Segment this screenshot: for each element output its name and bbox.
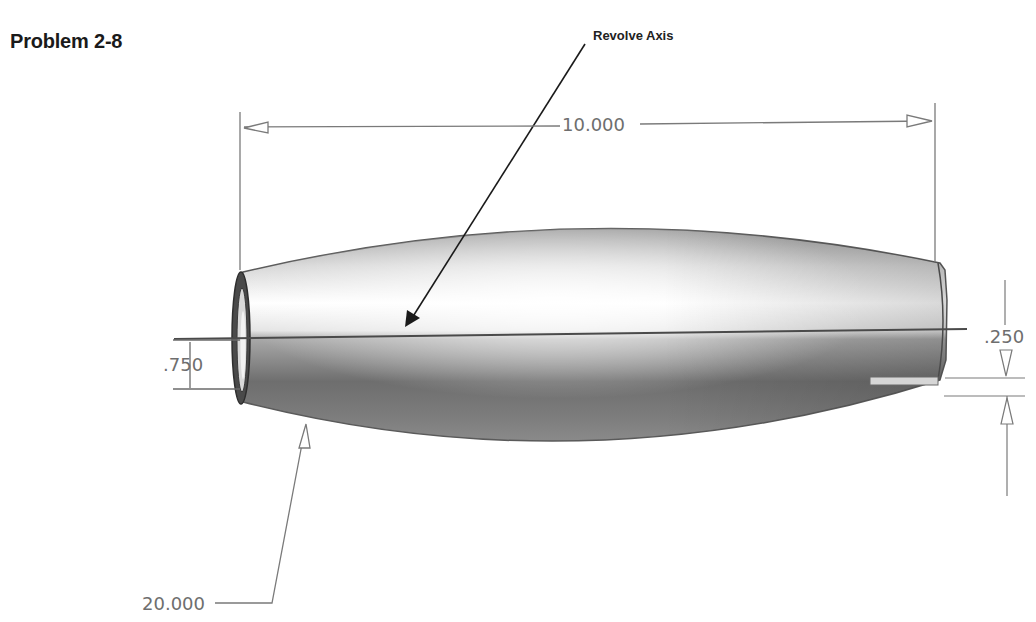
dim-arrow-down-icon (1000, 350, 1012, 376)
length-dimension-value: 10.000 (562, 116, 625, 134)
diameter-750-value: .750 (163, 356, 203, 374)
part-drawing (0, 0, 1036, 622)
dim-arrow-right-icon (907, 115, 932, 127)
offset-250-dimension (944, 280, 1025, 496)
right-end-step (870, 377, 938, 385)
revolved-body (232, 229, 947, 441)
radius-value: 20.000 (142, 595, 205, 613)
dim-arrow-up-icon (1001, 398, 1013, 424)
radius-leader (215, 424, 310, 603)
offset-250-value: .250 (984, 328, 1024, 346)
dim-arrow-left-icon (244, 122, 268, 133)
radius-arrow-icon (299, 424, 310, 448)
